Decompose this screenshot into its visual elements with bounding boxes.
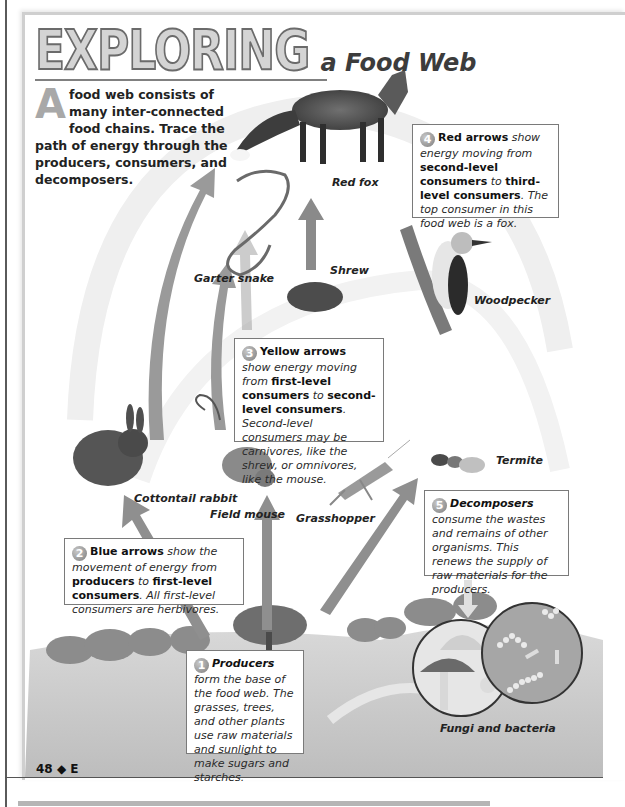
label-fungi-bacteria: Fungi and bacteria [440,722,556,735]
label-field-mouse: Field mouse [210,508,285,521]
label-cottontail-rabbit: Cottontail rabbit [134,492,237,505]
bacteria-circle [482,603,582,703]
callout-blue-arrows: 2Blue arrows show the movement of energy… [64,538,244,605]
title-exploring: EXPLORING [35,17,309,81]
callout-red-arrows: 4Red arrows show energy moving from seco… [412,124,559,218]
callout-producers: 1Producers form the base of the food web… [186,650,304,754]
second-to-third-arrows [298,198,324,270]
label-garter-snake: Garter snake [194,272,274,285]
label-shrew: Shrew [330,264,369,277]
number-2-badge: 2 [72,546,87,561]
label-woodpecker: Woodpecker [474,294,550,307]
title-underline [35,79,327,81]
title-subject: a Food Web [320,49,476,77]
number-3-badge: 3 [242,346,257,361]
page-number: 48 ◆ E [36,762,78,776]
page-title: EXPLORING a Food Web [35,30,476,81]
callout-decomposers: 5Decomposers consume the wastes and rema… [424,490,569,576]
label-red-fox: Red fox [332,176,379,189]
label-termite: Termite [496,454,543,467]
termite-illustration [431,454,485,473]
callout-yellow-arrows: 3Yellow arrows show energy moving from f… [234,338,384,442]
number-4-badge: 4 [420,132,435,147]
shrew-illustration [287,282,343,312]
label-grasshopper: Grasshopper [296,512,375,525]
number-5-badge: 5 [432,498,447,513]
drop-cap: A [35,87,66,121]
number-1-badge: 1 [194,658,209,673]
intro-paragraph: A food web consists of many inter-connec… [35,86,245,188]
